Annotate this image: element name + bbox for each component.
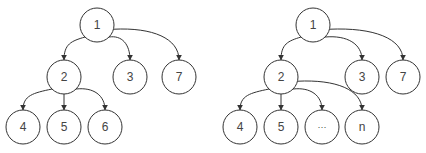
left-tree: 1237456 (6, 8, 196, 144)
node-label: 7 (400, 70, 407, 84)
node-label: 4 (20, 120, 27, 134)
edges (23, 29, 403, 110)
edge-1-to-3 (325, 37, 362, 60)
edge-1-to-2 (281, 37, 301, 60)
node-label: n (359, 120, 366, 134)
edge-1-to-7 (329, 29, 403, 60)
node-7: 7 (386, 60, 420, 94)
node-1: 1 (80, 8, 114, 42)
node-1: 1 (296, 8, 330, 42)
node-5: 5 (47, 110, 81, 144)
node-2: 2 (264, 60, 298, 94)
edge-1-to-2 (64, 37, 85, 60)
node-3: 3 (113, 60, 147, 94)
right-tree: 123745···n (223, 8, 420, 144)
node-label: 5 (61, 120, 68, 134)
node-label: 3 (127, 70, 134, 84)
node-3: 3 (345, 60, 379, 94)
node-2: 2 (47, 60, 81, 94)
node-dots: ··· (305, 110, 339, 144)
node-6: 6 (88, 110, 122, 144)
nodes: 1237456123745···n (6, 8, 420, 144)
node-4: 4 (223, 110, 257, 144)
edge-2-to-6 (76, 89, 105, 110)
node-label: 5 (278, 120, 285, 134)
node-label: 1 (94, 18, 101, 32)
edge-2-to-dots (293, 89, 322, 110)
node-label: 1 (310, 18, 317, 32)
edge-2-to-4 (23, 89, 52, 110)
node-label: ··· (318, 122, 327, 132)
node-7: 7 (162, 60, 196, 94)
node-label: 2 (278, 70, 285, 84)
node-label: 6 (102, 120, 109, 134)
edge-1-to-7 (113, 29, 179, 60)
edge-1-to-3 (109, 37, 130, 60)
node-4: 4 (6, 110, 40, 144)
node-n: n (345, 110, 379, 144)
right-tree-edges (240, 29, 403, 110)
node-label: 2 (61, 70, 68, 84)
tree-diagram: 1237456123745···n (0, 0, 426, 153)
edge-2-to-4 (240, 89, 269, 110)
node-label: 7 (176, 70, 183, 84)
node-5: 5 (264, 110, 298, 144)
node-label: 4 (237, 120, 244, 134)
node-label: 3 (359, 70, 366, 84)
